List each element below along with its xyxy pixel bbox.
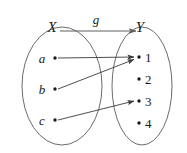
domain-set-label: X xyxy=(46,19,57,35)
codomain-label-3: 3 xyxy=(145,94,152,109)
function-label-g: g xyxy=(93,12,100,27)
codomain-label-2: 2 xyxy=(145,72,152,87)
function-mapping-diagram: X Y g a b c 1 2 3 4 xyxy=(0,0,187,153)
codomain-label-4: 4 xyxy=(145,116,152,131)
diagram-canvas: X Y g a b c 1 2 3 4 xyxy=(0,0,187,153)
domain-label-c: c xyxy=(39,113,45,128)
edge-a-to-1 xyxy=(58,57,134,58)
domain-label-b: b xyxy=(39,82,46,97)
codomain-label-1: 1 xyxy=(145,50,152,65)
domain-ellipse xyxy=(22,27,102,145)
codomain-dot-3 xyxy=(137,99,140,102)
domain-dot-b xyxy=(53,87,56,90)
codomain-dot-1 xyxy=(137,55,140,58)
codomain-ellipse xyxy=(112,27,172,145)
codomain-dot-4 xyxy=(137,121,140,124)
edge-b-to-1 xyxy=(58,60,134,90)
domain-dot-a xyxy=(53,56,56,59)
domain-label-a: a xyxy=(39,51,46,66)
codomain-dot-2 xyxy=(137,77,140,80)
domain-dot-c xyxy=(53,118,56,121)
